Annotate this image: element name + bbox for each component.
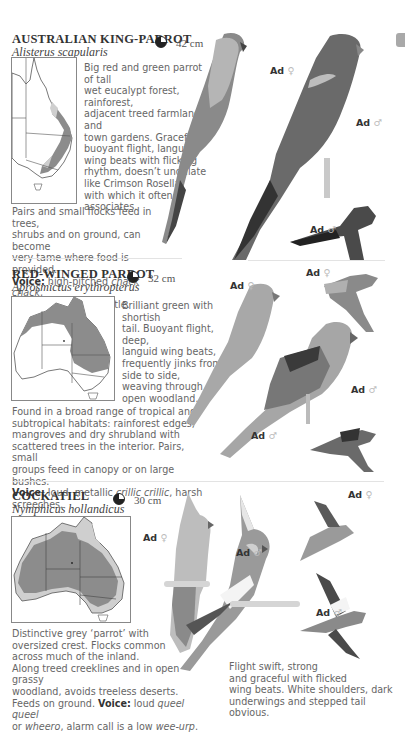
age-sex-label: Ad ♀: [143, 532, 167, 543]
age-sex-label: Ad ♀: [230, 280, 254, 291]
age-sex-label: Ad ♀: [270, 65, 294, 76]
red-winged-parrot-illustrations: [180, 262, 395, 472]
map-australia-icon: [12, 297, 114, 400]
scientific-name: Aprosmictus erythropterus: [12, 280, 139, 295]
bird-flying-male-icon: [310, 428, 376, 472]
age-sex-label: Ad ♂: [351, 384, 377, 395]
map-australia-icon: [12, 517, 130, 622]
age-sex-label: Ad ♂: [316, 607, 342, 618]
distribution-map: [11, 57, 77, 204]
age-sex-label: Ad ♀: [348, 489, 372, 500]
distribution-map: [11, 296, 115, 401]
age-sex-label: Ad ♂: [251, 430, 277, 441]
cockatiel-illustrations: [150, 485, 395, 675]
section-divider: [12, 258, 182, 259]
bird-female-icon: [164, 493, 214, 653]
age-sex-label: Ad ♀: [306, 267, 330, 278]
section-divider: [248, 260, 385, 261]
age-sex-label: Ad ♂: [236, 547, 262, 558]
section-divider: [12, 481, 384, 482]
page-tab: [396, 33, 405, 47]
distribution-map: [11, 516, 131, 623]
map-east-australia-icon: [12, 58, 76, 203]
bird-flying-female-icon: [300, 501, 354, 561]
scientific-name: Nymphicus hollandicus: [12, 502, 124, 517]
age-sex-label: Ad ♂: [310, 224, 336, 235]
bird-female-icon: [162, 33, 247, 244]
species-size: 32 cm: [148, 272, 175, 284]
age-sex-label: Ad ♂: [356, 117, 382, 128]
